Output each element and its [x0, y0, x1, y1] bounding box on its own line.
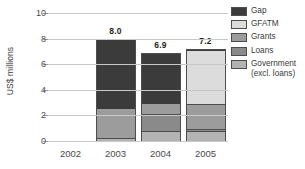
legend-item[interactable]: Gap	[231, 6, 305, 16]
gridline	[48, 90, 228, 91]
bar-segment[interactable]	[97, 40, 135, 109]
legend-swatch	[231, 7, 247, 16]
legend-swatch	[231, 47, 247, 56]
legend-label: Government (excl. loans)	[251, 59, 296, 79]
bar-group[interactable]	[51, 13, 91, 141]
bar-segment[interactable]	[142, 54, 180, 104]
x-axis-tick-label: 2005	[183, 148, 229, 159]
y-axis-title-text: US$ millions	[5, 47, 15, 95]
legend-label: GFATM	[251, 19, 279, 29]
x-axis-tick-label: 2004	[138, 148, 184, 159]
gridline	[48, 115, 228, 116]
bar-total-label: 6.9	[141, 40, 181, 50]
y-axis-tick-label: 8	[24, 34, 46, 43]
bar-segment[interactable]	[97, 109, 135, 139]
gridline	[48, 13, 228, 14]
bar-segment[interactable]	[187, 105, 225, 131]
bar-segment[interactable]	[142, 115, 180, 132]
legend-label: Grants	[251, 32, 276, 42]
plot-area: 8.06.97.2	[48, 13, 228, 141]
chart-legend: GapGFATMGrantsLoansGovernment (excl. loa…	[231, 6, 305, 82]
y-axis-tick-label: 4	[24, 85, 46, 94]
legend-item[interactable]: Loans	[231, 46, 305, 56]
legend-swatch	[231, 60, 247, 69]
legend-item[interactable]: Government (excl. loans)	[231, 59, 305, 79]
bar-total-label: 8.0	[96, 26, 136, 36]
legend-swatch	[231, 20, 247, 29]
y-axis-tick-label: 0	[24, 137, 46, 146]
bar-segment[interactable]	[142, 104, 180, 116]
bar-segment[interactable]	[187, 51, 225, 105]
x-axis-tick-label: 2002	[48, 148, 94, 159]
stacked-bar[interactable]	[186, 49, 226, 141]
legend-item[interactable]: GFATM	[231, 19, 305, 29]
gridline	[48, 64, 228, 65]
y-axis-tick-label: 6	[24, 60, 46, 69]
legend-label: Gap	[251, 6, 266, 16]
bar-total-label: 7.2	[186, 36, 226, 46]
stacked-bar[interactable]	[141, 53, 181, 141]
bar-group[interactable]: 6.9	[141, 13, 181, 141]
y-axis-tick-label: 10	[24, 9, 46, 18]
gridline	[48, 141, 228, 142]
bar-group[interactable]: 8.0	[96, 13, 136, 141]
y-axis-tick-label: 2	[24, 111, 46, 120]
stacked-bar-chart: US$ millions 0246810 8.06.97.2 200220032…	[0, 0, 305, 169]
y-axis-title: US$ millions	[2, 0, 18, 142]
legend-item[interactable]: Grants	[231, 32, 305, 42]
x-axis-tick-label: 2003	[93, 148, 139, 159]
bar-group[interactable]: 7.2	[186, 13, 226, 141]
legend-label: Loans	[251, 46, 273, 56]
legend-swatch	[231, 33, 247, 42]
gridline	[48, 39, 228, 40]
